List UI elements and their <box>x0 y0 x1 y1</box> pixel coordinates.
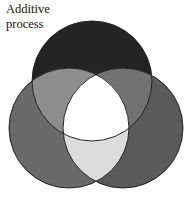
venn-diagram <box>0 0 184 198</box>
